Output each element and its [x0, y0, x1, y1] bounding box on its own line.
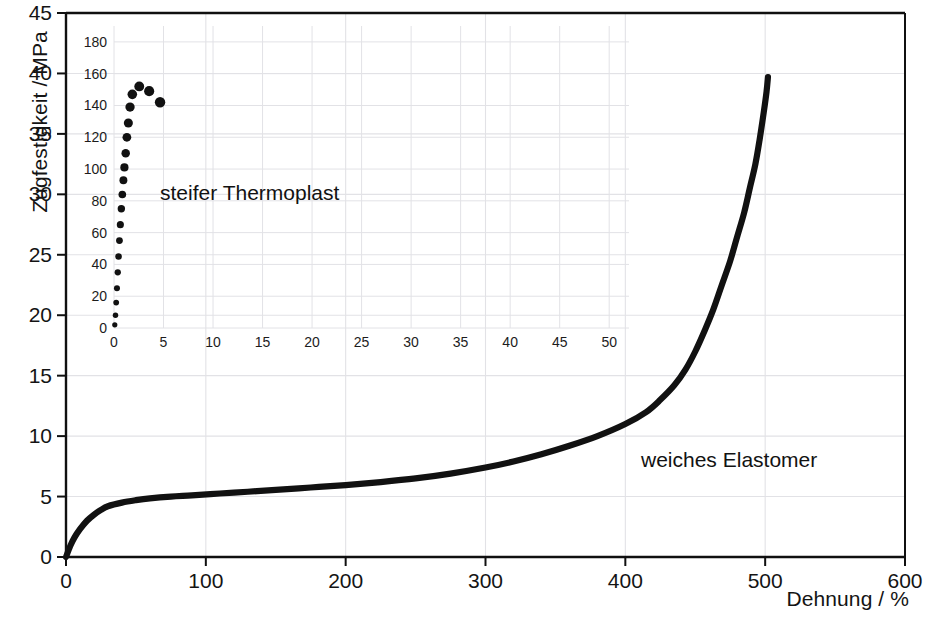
inset-x-tick-5: 5 [160, 334, 168, 350]
main-x-tick-500: 500 [748, 569, 783, 593]
main-x-tick-0: 0 [60, 569, 72, 593]
main-y-tick-35: 35 [29, 122, 52, 146]
elastomer-curve [66, 77, 768, 557]
main-y-tick-45: 45 [29, 1, 52, 25]
plot-area [0, 0, 933, 617]
inset-x-tick-0: 0 [110, 334, 118, 350]
annotation-steifer-thermoplast: steifer Thermoplast [160, 181, 339, 205]
inset-gridlines [114, 26, 629, 328]
inset-y-tick-100: 100 [84, 161, 107, 177]
inset-y-tick-40: 40 [91, 256, 107, 272]
main-y-tick-20: 20 [29, 303, 52, 327]
main-x-tick-100: 100 [188, 569, 223, 593]
main-y-tick-0: 0 [40, 545, 52, 569]
main-y-tick-25: 25 [29, 243, 52, 267]
inset-x-tick-25: 25 [354, 334, 370, 350]
main-y-tick-15: 15 [29, 364, 52, 388]
inset-y-tick-140: 140 [84, 97, 107, 113]
inset-x-tick-40: 40 [502, 334, 518, 350]
thermoplast-scatter-points [112, 81, 165, 327]
inset-y-tick-80: 80 [91, 193, 107, 209]
inset-y-tick-160: 160 [84, 66, 107, 82]
main-x-tick-300: 300 [468, 569, 503, 593]
inset-x-tick-35: 35 [453, 334, 469, 350]
inset-x-tick-20: 20 [304, 334, 320, 350]
annotation-weiches-elastomer: weiches Elastomer [641, 448, 817, 472]
inset-y-tick-0: 0 [99, 320, 107, 336]
main-x-tick-600: 600 [887, 569, 922, 593]
main-x-tick-400: 400 [608, 569, 643, 593]
inset-x-tick-45: 45 [552, 334, 568, 350]
inset-x-tick-10: 10 [205, 334, 221, 350]
inset-y-tick-60: 60 [91, 225, 107, 241]
inset-x-tick-50: 50 [601, 334, 617, 350]
inset-x-tick-15: 15 [255, 334, 271, 350]
inset-y-tick-20: 20 [91, 288, 107, 304]
inset-x-tick-30: 30 [403, 334, 419, 350]
main-gridlines [66, 13, 905, 557]
inset-y-tick-120: 120 [84, 129, 107, 145]
main-tick-marks [57, 13, 905, 566]
main-y-tick-30: 30 [29, 182, 52, 206]
main-y-tick-40: 40 [29, 61, 52, 85]
main-x-tick-200: 200 [328, 569, 363, 593]
main-y-tick-5: 5 [40, 485, 52, 509]
stress-strain-chart-figure: Zugfestigkeit / MPa Dehnung / % steifer … [0, 0, 933, 617]
main-y-tick-10: 10 [29, 424, 52, 448]
inset-y-tick-180: 180 [84, 34, 107, 50]
